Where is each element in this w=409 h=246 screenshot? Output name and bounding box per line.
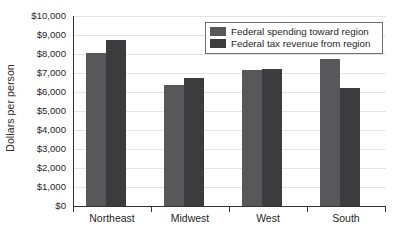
y-axis-tick-label: $10,000 — [18, 10, 66, 22]
bar — [184, 78, 204, 206]
y-axis-title-text: Dollars per person — [4, 64, 16, 152]
x-axis-tick-mark — [385, 206, 386, 212]
legend-item-spending: Federal spending toward region — [210, 26, 378, 37]
bar — [262, 69, 282, 206]
y-axis-tick-label: $1,000 — [18, 181, 66, 193]
y-axis-tick-label: $4,000 — [18, 124, 66, 136]
y-axis-tick-label: $3,000 — [18, 143, 66, 155]
bar-chart: Dollars per person $0$1,000$2,000$3,000$… — [0, 0, 409, 246]
legend-swatch-revenue-icon — [210, 39, 226, 48]
y-axis-tick-label: $9,000 — [18, 29, 66, 41]
y-axis-tick-label: $6,000 — [18, 86, 66, 98]
y-axis-tick-label: $0 — [18, 200, 66, 212]
legend-swatch-spending-icon — [210, 27, 226, 36]
x-axis-label-midwest: Midwest — [151, 212, 229, 224]
bar — [106, 40, 126, 206]
x-axis-label-south: South — [307, 212, 385, 224]
chart-legend: Federal spending toward region Federal t… — [205, 22, 383, 54]
bar — [340, 88, 360, 206]
legend-item-revenue: Federal tax revenue from region — [210, 38, 378, 49]
bar — [320, 59, 340, 206]
y-axis-tick-labels: $0$1,000$2,000$3,000$4,000$5,000$6,000$7… — [18, 16, 66, 206]
y-axis-title: Dollars per person — [2, 0, 18, 216]
x-axis-labels: NortheastMidwestWestSouth — [73, 212, 385, 232]
bar — [164, 85, 184, 206]
x-axis-label-northeast: Northeast — [73, 212, 151, 224]
legend-label-spending: Federal spending toward region — [231, 26, 369, 37]
bar — [242, 70, 262, 206]
bar — [86, 53, 106, 206]
bar-group — [74, 16, 152, 206]
y-axis-tick-label: $5,000 — [18, 105, 66, 117]
legend-label-revenue: Federal tax revenue from region — [231, 38, 370, 49]
x-axis-label-west: West — [229, 212, 307, 224]
y-axis-tick-label: $2,000 — [18, 162, 66, 174]
y-axis-tick-label: $8,000 — [18, 48, 66, 60]
y-axis-tick-label: $7,000 — [18, 67, 66, 79]
